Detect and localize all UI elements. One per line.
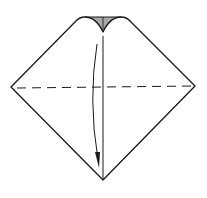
valley-fold-dashed-line [17,86,193,88]
fold-arrow-curve [93,44,98,160]
origami-diagram [0,0,207,198]
arrow-head-icon [95,152,100,168]
